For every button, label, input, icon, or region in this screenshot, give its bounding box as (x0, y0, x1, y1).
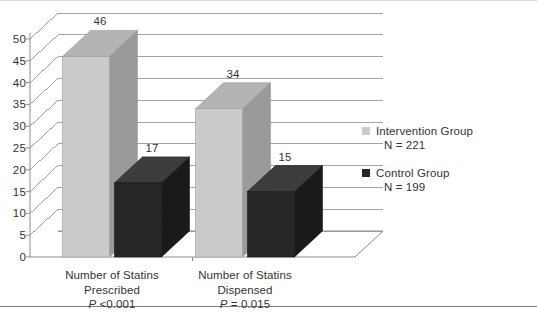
category-label-line2: Dispensed (160, 283, 330, 298)
y-tick-label: 20 (0, 164, 26, 176)
category-label: Number of StatinsDispensedP = 0.015 (160, 268, 330, 312)
y-tick-label: 0 (0, 251, 26, 263)
p-symbol: P (220, 298, 228, 310)
category-label-line1: Number of Statins (65, 269, 159, 281)
legend-label: Intervention Group (376, 124, 534, 138)
y-tick-label: 45 (0, 55, 26, 67)
chart-legend: Intervention GroupN = 221Control GroupN … (362, 124, 534, 208)
y-tick-label: 25 (0, 142, 26, 154)
category-label-line1: Number of Statins (198, 269, 292, 281)
legend-entry-0[interactable]: Intervention GroupN = 221 (362, 124, 534, 153)
y-tick-label: 15 (0, 186, 26, 198)
legend-swatch-icon (362, 169, 370, 177)
bar-value-label: 15 (265, 151, 305, 163)
y-tick-label: 50 (0, 33, 26, 45)
legend-swatch-icon (362, 127, 370, 135)
legend-sublabel: N = 199 (384, 180, 534, 195)
legend-entry-1[interactable]: Control GroupN = 199 (362, 166, 534, 195)
y-tick-label: 5 (0, 229, 26, 241)
chart-figure: 50454035302520151050 46173415 Number of … (0, 0, 537, 317)
legend-label: Control Group (376, 166, 534, 180)
bar-value-label: 46 (80, 15, 120, 27)
bar-value-label: 17 (132, 142, 172, 154)
bar-value-label: 34 (213, 68, 253, 80)
p-symbol: P (88, 298, 96, 310)
legend-sublabel: N = 221 (384, 138, 534, 153)
y-tick-label: 30 (0, 120, 26, 132)
category-p-value: P = 0.015 (160, 297, 330, 312)
y-tick-label: 10 (0, 207, 26, 219)
y-tick-label: 35 (0, 98, 26, 110)
y-tick-label: 40 (0, 77, 26, 89)
